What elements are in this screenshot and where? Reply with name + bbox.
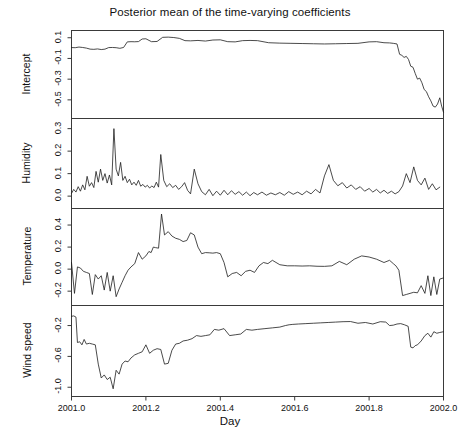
series-line-temperature [72, 214, 444, 297]
y-axis-title-temperature: Temperature [20, 208, 32, 305]
x-tick-label: 2001.0 [42, 403, 102, 413]
y-tick-label-wind_speed: -1.0 [53, 371, 63, 401]
plot-area [0, 0, 460, 448]
x-tick-label: 2001.8 [339, 403, 399, 413]
panel-frame-intercept [72, 31, 444, 119]
x-axis-label: Day [0, 415, 460, 427]
chart-title: Posterior mean of the time-varying coeff… [0, 6, 460, 18]
y-tick-label-humidity: 0.0 [53, 180, 63, 210]
x-tick-label: 2001.6 [265, 403, 325, 413]
y-tick-label-intercept: -0.5 [53, 84, 63, 114]
series-line-intercept [72, 37, 444, 112]
y-axis-title-intercept: Intercept [20, 30, 32, 118]
y-tick-label-wind_speed: -0.2 [53, 310, 63, 340]
panel-frame-temperature [72, 209, 444, 306]
x-tick-label: 2001.4 [190, 403, 250, 413]
y-axis-title-wind_speed: Wind speed [20, 305, 32, 396]
panel-frame-wind_speed [72, 306, 444, 397]
y-tick-label-temperature: -0.2 [53, 275, 63, 305]
x-tick-label: 2002.0 [414, 403, 460, 413]
x-tick-label: 2001.2 [116, 403, 176, 413]
series-line-wind_speed [72, 316, 444, 389]
series-line-humidity [72, 129, 440, 196]
y-axis-title-humidity: Humidity [20, 118, 32, 208]
figure-container: Posterior mean of the time-varying coeff… [0, 0, 460, 448]
y-tick-label-wind_speed: -0.6 [53, 340, 63, 370]
